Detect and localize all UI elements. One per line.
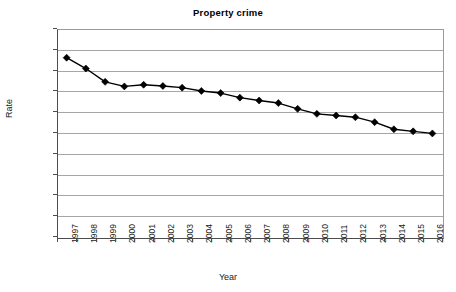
gridline	[58, 154, 443, 155]
plot-area	[57, 29, 444, 239]
x-tick-mark	[192, 238, 193, 242]
gridline	[58, 112, 443, 113]
y-axis-title: Rate	[4, 99, 14, 118]
x-tick-label: 1999	[109, 224, 118, 243]
y-tick-mark	[53, 49, 57, 50]
x-tick-mark	[76, 238, 77, 242]
x-tick-mark	[250, 238, 251, 242]
x-tick-mark	[327, 238, 328, 242]
y-tick-mark	[53, 90, 57, 91]
x-tick-label: 2010	[321, 224, 330, 243]
x-tick-label: 2005	[225, 224, 234, 243]
x-tick-mark	[384, 238, 385, 242]
y-tick-mark	[53, 174, 57, 175]
gridline	[58, 195, 443, 196]
gridline	[58, 175, 443, 176]
x-tick-mark	[57, 238, 58, 242]
gridline	[58, 216, 443, 217]
y-tick-mark	[53, 194, 57, 195]
x-tick-label: 2006	[244, 224, 253, 243]
x-tick-label: 2002	[167, 224, 176, 243]
x-tick-mark	[115, 238, 116, 242]
x-tick-label: 2001	[148, 224, 157, 243]
y-tick-mark	[53, 111, 57, 112]
x-tick-label: 2003	[186, 224, 195, 243]
x-tick-label: 2012	[359, 224, 368, 243]
property-crime-line-chart: Property crime Rate 50004500400035003000…	[0, 0, 456, 292]
y-tick-mark	[53, 153, 57, 154]
x-tick-mark	[307, 238, 308, 242]
x-tick-label: 2007	[263, 224, 272, 243]
x-tick-mark	[211, 238, 212, 242]
x-tick-label: 2000	[128, 224, 137, 243]
y-tick-mark	[53, 28, 57, 29]
x-tick-mark	[288, 238, 289, 242]
gridline	[58, 133, 443, 134]
x-tick-label: 2011	[340, 225, 349, 243]
x-tick-mark	[230, 238, 231, 242]
x-tick-mark	[442, 238, 443, 242]
x-tick-mark	[96, 238, 97, 242]
y-tick-mark	[53, 70, 57, 71]
x-tick-label: 1998	[90, 224, 99, 243]
chart-title: Property crime	[0, 7, 456, 18]
x-tick-mark	[173, 238, 174, 242]
gridline	[58, 71, 443, 72]
x-tick-mark	[365, 238, 366, 242]
x-axis-title: Year	[0, 272, 456, 282]
y-tick-mark	[53, 132, 57, 133]
x-tick-mark	[346, 238, 347, 242]
gridline	[58, 50, 443, 51]
x-tick-mark	[269, 238, 270, 242]
x-tick-label: 2016	[436, 224, 445, 243]
x-tick-mark	[153, 238, 154, 242]
x-tick-label: 2009	[302, 224, 311, 243]
y-tick-mark	[53, 236, 57, 237]
x-tick-mark	[423, 238, 424, 242]
x-tick-label: 2013	[379, 224, 388, 243]
x-tick-label: 2014	[398, 224, 407, 243]
y-tick-mark	[53, 215, 57, 216]
x-tick-label: 2004	[205, 224, 214, 243]
x-tick-label: 2015	[417, 224, 426, 243]
x-tick-mark	[134, 238, 135, 242]
x-tick-mark	[404, 238, 405, 242]
x-tick-label: 1997	[71, 224, 80, 243]
x-tick-label: 2008	[282, 224, 291, 243]
gridline	[58, 91, 443, 92]
